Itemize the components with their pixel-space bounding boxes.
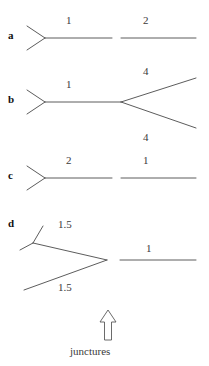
row-b-lower-branch-value: 4 xyxy=(143,132,149,143)
row-d-big-fork-upper-branch xyxy=(33,243,107,260)
row-d-small-fork-lower-branch xyxy=(20,243,33,250)
row-b-graphics xyxy=(27,78,196,128)
row-a-segment-1-value: 1 xyxy=(66,15,72,26)
row-c-segment-1-value: 2 xyxy=(66,155,72,166)
row-b-segment-1-value: 1 xyxy=(66,79,72,90)
row-d-small-fork-upper-branch xyxy=(33,226,43,243)
row-a-left-fork-lower-branch xyxy=(27,38,45,50)
row-d-lower-branch-value: 1.5 xyxy=(58,282,72,293)
row-label-b: b xyxy=(8,94,14,105)
row-a-graphics xyxy=(27,26,196,50)
row-c-segment-2-value: 1 xyxy=(143,155,149,166)
row-label-d: d xyxy=(8,218,14,229)
row-b-right-fork-upper-branch xyxy=(121,78,196,102)
row-b-upper-branch-value: 4 xyxy=(143,66,149,77)
juncture-diagram: a b c d 1 2 1 4 4 2 1 1.5 1.5 1 juncture… xyxy=(0,0,209,366)
row-c-graphics xyxy=(27,166,196,190)
row-b-right-fork-lower-branch xyxy=(121,102,196,128)
row-a-segment-2-value: 2 xyxy=(143,15,149,26)
row-label-c: c xyxy=(8,170,13,181)
row-label-a: a xyxy=(8,30,14,41)
row-d-graphics xyxy=(20,226,196,290)
diagram-canvas xyxy=(0,0,209,366)
row-d-upper-branch-value: 1.5 xyxy=(58,219,72,230)
row-a-left-fork-upper-branch xyxy=(27,26,45,38)
row-b-left-fork-lower-branch xyxy=(27,102,45,114)
row-c-left-fork-upper-branch xyxy=(27,166,45,178)
junctures-arrow-icon xyxy=(100,310,116,340)
junctures-caption: junctures xyxy=(70,345,110,357)
row-c-left-fork-lower-branch xyxy=(27,178,45,190)
row-b-left-fork-upper-branch xyxy=(27,90,45,102)
row-d-segment-1-value: 1 xyxy=(146,243,152,254)
